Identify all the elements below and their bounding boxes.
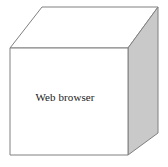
cube-svg: Web browser <box>0 0 168 167</box>
cube-front-face-label: Web browser <box>35 91 94 103</box>
cube-diagram: Web browser <box>0 0 168 167</box>
